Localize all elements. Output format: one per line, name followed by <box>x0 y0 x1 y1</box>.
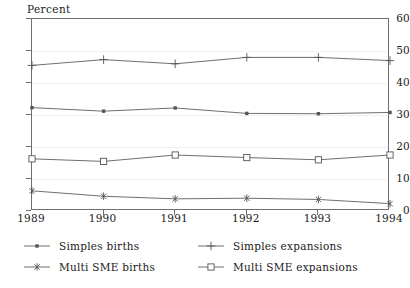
data-point-plus <box>314 53 323 62</box>
y-tick-mark <box>26 210 31 211</box>
data-point-plus <box>99 55 108 64</box>
series-layer <box>32 19 390 211</box>
data-point-open-square <box>387 152 393 158</box>
legend-label: Multi SME expansions <box>233 261 358 273</box>
chart-figure: Percent 0102030405060 198919901991199219… <box>0 0 410 288</box>
legend-marker-plus-icon <box>198 240 224 252</box>
y-axis-label: Percent <box>27 3 71 15</box>
legend-label: Simples births <box>59 240 140 252</box>
data-point-filled-square-dot <box>174 106 177 109</box>
data-point-plus <box>28 61 37 70</box>
data-point-plus <box>386 56 395 65</box>
x-tick-label: 1992 <box>232 212 260 224</box>
chart-legend: Simples birthsMulti SME birthsSimples ex… <box>0 240 410 284</box>
series-line-2 <box>32 57 390 65</box>
legend-marker-asterisk-icon <box>24 261 50 273</box>
series-line-3 <box>32 155 390 161</box>
data-point-plus <box>171 60 180 69</box>
data-point-open-square <box>172 152 178 158</box>
legend-marker-open-square-icon <box>198 261 224 273</box>
data-point-filled-square-dot <box>388 111 391 114</box>
data-point-filled-square-dot <box>30 106 33 109</box>
legend-item-1[interactable]: Multi SME births <box>24 261 155 273</box>
data-point-open-square <box>101 158 107 164</box>
data-point-filled-square-dot <box>35 244 38 247</box>
data-point-open-square <box>29 156 35 162</box>
data-point-plus <box>243 53 252 62</box>
x-tick-label: 1993 <box>304 212 332 224</box>
data-point-filled-square-dot <box>317 112 320 115</box>
plot-area <box>31 18 389 210</box>
legend-item-2[interactable]: Simples expansions <box>198 240 342 252</box>
legend-item-3[interactable]: Multi SME expansions <box>198 261 358 273</box>
data-point-open-square <box>315 157 321 163</box>
legend-label: Simples expansions <box>233 240 342 252</box>
series-line-0 <box>32 108 390 114</box>
x-tick-label: 1989 <box>17 212 45 224</box>
legend-marker-filled-square-dot-icon <box>24 240 50 252</box>
x-tick-label: 1990 <box>89 212 117 224</box>
legend-label: Multi SME births <box>59 261 155 273</box>
x-tick-label: 1991 <box>160 212 188 224</box>
data-point-open-square <box>244 154 250 160</box>
data-point-plus <box>207 242 216 251</box>
data-point-filled-square-dot <box>245 112 248 115</box>
data-point-open-square <box>208 264 214 270</box>
x-tick-label: 1994 <box>375 212 403 224</box>
data-point-filled-square-dot <box>102 109 105 112</box>
series-line-1 <box>32 191 390 204</box>
legend-item-0[interactable]: Simples births <box>24 240 140 252</box>
